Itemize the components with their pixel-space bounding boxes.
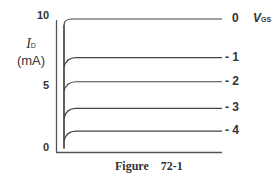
curve-label: - 2 [225,74,239,88]
curve-group [64,19,222,149]
legend-title-subscript: GS [261,16,271,23]
y-axis-label: ID (mA) [14,36,48,68]
curve-vgs-neg4 [64,131,222,141]
legend-title: VGS [253,11,271,25]
y-axis-subscript: D [31,42,36,49]
figure-caption: Figure 72-1 [115,159,183,174]
y-tick-5: 5 [43,79,49,91]
y-tick-10: 10 [37,9,49,21]
y-tick-0: 0 [43,141,49,153]
curve-label: - 4 [225,123,239,137]
curve-label: - 1 [225,50,239,64]
y-axis-unit: (mA) [14,53,48,68]
curve-vgs-0 [64,19,222,149]
curve-vgs-neg2 [64,82,222,92]
legend-title-symbol: V [253,11,261,25]
curve-vgs-neg3 [64,108,222,118]
curve-vgs-neg1 [64,58,222,68]
chart-plot [0,0,280,178]
curve-label: - 3 [225,100,239,114]
curve-label: 0 [232,11,239,25]
